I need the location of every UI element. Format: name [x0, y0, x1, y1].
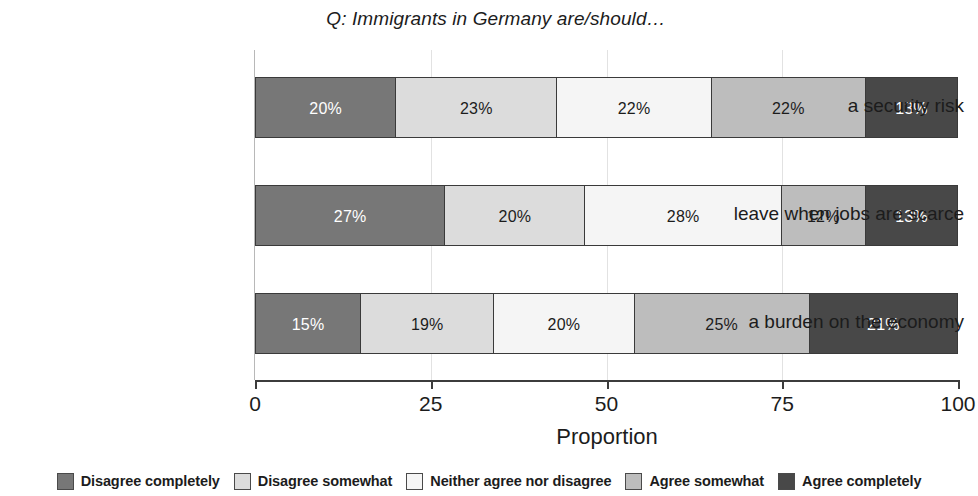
x-tick-75	[782, 380, 784, 389]
y-axis-label: leave when jobs are scarce	[544, 203, 964, 225]
bar-segment-label: 20%	[309, 100, 342, 118]
y-axis-label: a burden on the economy	[544, 311, 964, 333]
x-tick-label: 75	[771, 392, 794, 416]
x-tick-0	[255, 380, 257, 389]
bar-segment: 19%	[361, 294, 494, 353]
chart-legend: Disagree completelyDisagree somewhatNeit…	[0, 466, 978, 496]
legend-label: Agree somewhat	[649, 473, 764, 489]
x-tick-label: 0	[249, 392, 261, 416]
bar-segment-label: 27%	[334, 208, 367, 226]
x-tick-label: 100	[940, 392, 975, 416]
bar-segment-label: 19%	[411, 316, 444, 334]
bar-segment: 15%	[256, 294, 361, 353]
legend-swatch-icon	[406, 473, 423, 490]
legend-label: Disagree completely	[81, 473, 220, 489]
legend-swatch-icon	[625, 473, 642, 490]
legend-swatch-icon	[234, 473, 251, 490]
bar-segment: 27%	[256, 186, 445, 245]
legend-swatch-icon	[778, 473, 795, 490]
x-tick-label: 25	[419, 392, 442, 416]
chart-title: Q: Immigrants in Germany are/should…	[0, 8, 978, 30]
legend-item: Disagree completely	[57, 473, 220, 490]
legend-swatch-icon	[57, 473, 74, 490]
legend-label: Agree completely	[802, 473, 921, 489]
x-axis-title: Proportion	[255, 424, 959, 450]
bar-segment-label: 15%	[292, 316, 325, 334]
bar-segment: 20%	[256, 78, 396, 137]
bar-segment-label: 23%	[460, 100, 493, 118]
x-tick-100	[958, 380, 960, 389]
legend-item: Disagree somewhat	[234, 473, 393, 490]
y-axis-label: a security risk	[544, 95, 964, 117]
x-tick-25	[431, 380, 433, 389]
legend-item: Neither agree nor disagree	[406, 473, 611, 490]
bar-segment: 23%	[396, 78, 557, 137]
legend-item: Agree somewhat	[625, 473, 764, 490]
bar-segment-label: 20%	[499, 208, 532, 226]
legend-label: Disagree somewhat	[258, 473, 393, 489]
x-tick-label: 50	[595, 392, 618, 416]
x-tick-50	[607, 380, 609, 389]
legend-item: Agree completely	[778, 473, 921, 490]
legend-label: Neither agree nor disagree	[430, 473, 611, 489]
